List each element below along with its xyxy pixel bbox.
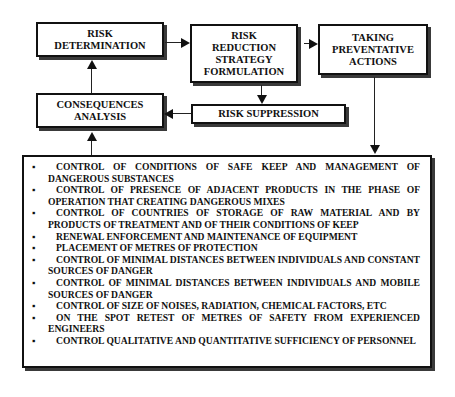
preventative-actions-list-box: ▪CONTROL OF CONDITIONS OF SAFE KEEP AND … (22, 155, 432, 368)
risk-suppression-label: RISK SUPPRESSION (218, 108, 319, 120)
list-item: ▪CONTROL OF COUNTRIES OF STORAGE OF RAW … (32, 207, 420, 230)
bullet-icon: ▪ (32, 184, 48, 196)
list-item: ▪ON THE SPOT RETEST OF METRES OF SAFETY … (32, 312, 420, 335)
connector-reduction-to-suppression (261, 85, 262, 95)
risk-reduction-line-2: REDUCTION (204, 42, 284, 54)
connector-actions-to-list (374, 77, 375, 146)
connector-list-to-consequences (91, 140, 92, 155)
arrow-right-icon (309, 39, 318, 49)
taking-actions-line-3: ACTIONS (332, 56, 414, 68)
bullet-icon: ▪ (32, 207, 48, 219)
list-item: ▪PLACEMENT OF METRES OF PROTECTION (32, 242, 420, 254)
list-item: ▪CONTROL OF SIZE OF NOISES, RADIATION, C… (32, 300, 420, 312)
risk-reduction-strategy-box: RISK REDUCTION STRATEGY FORMULATION (190, 24, 298, 83)
bullet-icon: ▪ (32, 231, 48, 243)
bullet-icon: ▪ (32, 300, 48, 312)
risk-determination-box: RISK DETERMINATION (36, 22, 164, 57)
consequences-line-1: CONSEQUENCES (57, 99, 144, 111)
bullet-icon: ▪ (32, 277, 48, 289)
consequences-analysis-box: CONSEQUENCES ANALYSIS (36, 93, 164, 128)
bullet-icon: ▪ (32, 312, 48, 324)
list-item: ▪CONTROL QUALITATIVE AND QUANTITATIVE SU… (32, 335, 420, 347)
list-item: ▪CONTROL OF MINIMAL DISTANCES BETWEEN IN… (32, 254, 420, 277)
connector-suppression-to-consequences (172, 113, 191, 114)
risk-determination-line-1: RISK (54, 28, 145, 40)
arrow-left-icon (164, 109, 173, 119)
arrow-right-icon (181, 38, 190, 48)
risk-reduction-line-4: FORMULATION (204, 66, 284, 78)
bullet-icon: ▪ (32, 242, 48, 254)
list-item: ▪CONTROL OF CONDITIONS OF SAFE KEEP AND … (32, 161, 420, 184)
taking-actions-line-2: PREVENTATIVE (332, 44, 414, 56)
risk-suppression-box: RISK SUPPRESSION (191, 104, 346, 124)
arrow-down-icon (257, 95, 267, 104)
list-item: ▪CONTROL OF PRESENCE OF ADJACENT PRODUCT… (32, 184, 420, 207)
bullet-icon: ▪ (32, 161, 48, 173)
connector-consequences-to-determination (91, 68, 92, 93)
arrow-up-icon (87, 60, 97, 69)
consequences-line-2: ANALYSIS (57, 111, 144, 123)
risk-reduction-line-3: STRATEGY (204, 54, 284, 66)
risk-determination-line-2: DETERMINATION (54, 40, 145, 52)
risk-reduction-line-1: RISK (204, 30, 284, 42)
actions-list: ▪CONTROL OF CONDITIONS OF SAFE KEEP AND … (32, 161, 420, 347)
arrow-up-icon (87, 132, 97, 141)
taking-actions-line-1: TAKING (332, 32, 414, 44)
list-item: ▪CONTROL OF MINIMAL DISTANCES BETWEEN IN… (32, 277, 420, 300)
connector-determination-to-reduction (165, 42, 182, 43)
taking-preventative-actions-box: TAKING PREVENTATIVE ACTIONS (318, 24, 428, 75)
bullet-icon: ▪ (32, 335, 48, 347)
arrow-down-icon (370, 145, 380, 154)
bullet-icon: ▪ (32, 254, 48, 266)
list-item: ▪RENEWAL ENFORCEMENT AND MAINTENANCE OF … (32, 231, 420, 243)
